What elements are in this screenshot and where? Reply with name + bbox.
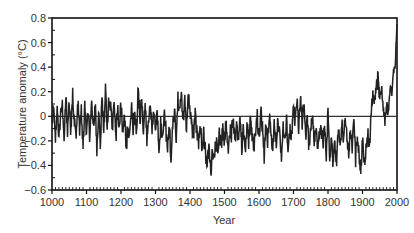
x-tick-label: 1000 xyxy=(40,196,64,208)
x-tick-label: 1300 xyxy=(143,196,167,208)
y-tick-label: 0 xyxy=(40,110,46,122)
x-tick-label: 1700 xyxy=(281,196,305,208)
x-tick-label: 1500 xyxy=(212,196,236,208)
x-tick-label: 1600 xyxy=(247,196,271,208)
y-tick-label: 0.4 xyxy=(31,61,46,73)
y-tick-label: 0.6 xyxy=(31,37,46,49)
plot-border xyxy=(52,18,397,190)
x-tick-label: 1100 xyxy=(75,196,99,208)
x-tick-label: 1800 xyxy=(316,196,340,208)
y-tick-label: −0.6 xyxy=(24,184,46,196)
x-tick-label: 1200 xyxy=(109,196,133,208)
x-tick-label: 1400 xyxy=(178,196,202,208)
y-tick-label: 0.8 xyxy=(31,12,46,24)
plot-frame xyxy=(52,18,397,190)
x-tick-label: 1900 xyxy=(350,196,374,208)
y-tick-label: 0.2 xyxy=(31,86,46,98)
temperature-anomaly-chart: −0.6−0.4−0.200.20.40.60.8 10001100120013… xyxy=(0,0,414,233)
temperature-series-line xyxy=(52,24,397,176)
x-axis-label: Year xyxy=(213,214,236,226)
x-tick-label: 2000 xyxy=(385,196,409,208)
series-line xyxy=(52,24,397,176)
y-axis-ticks: −0.6−0.4−0.200.20.40.60.8 xyxy=(24,12,55,196)
y-axis-label: Temperature anomaly (°C) xyxy=(16,39,28,168)
